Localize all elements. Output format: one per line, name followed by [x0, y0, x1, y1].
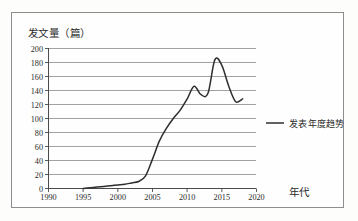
legend: 发表年度趋势 — [266, 118, 345, 129]
y-tick-label: 160 — [31, 73, 43, 82]
x-tick-label: 2015 — [214, 193, 230, 202]
figure-root: 发文量（篇） 年代 — [0, 0, 358, 221]
x-tick-label: 1990 — [40, 193, 56, 202]
series-line-publication-trend — [83, 58, 242, 189]
y-tick-label: 200 — [31, 45, 43, 54]
x-tick-label: 2000 — [110, 193, 126, 202]
x-tick-label: 1995 — [75, 193, 91, 202]
y-tick-label: 80 — [35, 129, 43, 138]
y-axis-title: 发文量（篇） — [28, 27, 90, 39]
y-tick-label: 140 — [31, 87, 43, 96]
legend-entry-label: 发表年度趋势 — [289, 118, 345, 129]
x-axis-title: 年代 — [289, 186, 310, 198]
y-tick-label: 40 — [35, 157, 43, 166]
gridlines — [48, 49, 256, 175]
x-tick-label: 2020 — [248, 193, 264, 202]
x-tick-label: 2005 — [144, 193, 160, 202]
y-tick-label: 180 — [31, 59, 43, 68]
y-tick-marks — [45, 49, 49, 189]
y-tick-label: 60 — [35, 143, 43, 152]
y-tick-label: 120 — [31, 101, 43, 110]
y-tick-label: 100 — [31, 115, 43, 124]
y-tick-labels: 200 180 160 140 120 100 80 60 40 20 0 — [31, 45, 43, 194]
y-tick-label: 20 — [35, 171, 43, 180]
x-tick-label: 2010 — [179, 193, 195, 202]
x-tick-labels: 1990 1995 2000 2005 2010 2015 2020 — [40, 193, 264, 202]
x-tick-marks — [49, 189, 257, 193]
line-chart: 发文量（篇） 年代 — [0, 0, 358, 221]
